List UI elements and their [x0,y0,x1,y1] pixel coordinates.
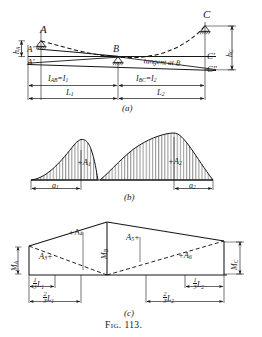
tangent-left-branch [28,57,120,63]
panel-a-graphic [19,22,237,100]
point-label-a-prime: A' [27,45,34,54]
point-label-c-prime: C' [207,52,215,61]
moment-label-mc: MC [231,260,240,270]
moment-label-mb: MB [101,249,110,259]
moment-label-ma: MA [11,261,20,271]
elastic-curve [41,26,205,58]
dim-label-twothird-l2: 23L2 [163,291,174,304]
point-label-a: A [40,24,47,35]
panel-label-b: (b) [124,193,135,202]
area-label-a6: +A6 [178,251,192,261]
inertia-label-ab: IAB=I1 [48,75,68,84]
deflection-label-h-a: hA [13,47,22,54]
dim-label-twothird-l1: 23L1 [43,291,54,304]
moment-line-bc [107,222,224,241]
dim-label-a1: a1 [52,182,59,191]
span-label-l1: L1 [66,88,74,98]
dim-label-a2: a2 [189,182,196,191]
moment-area-a2 [100,133,213,180]
panel-label-c: (c) [124,309,134,318]
inertia-label-bc: IBC=I2 [136,75,156,84]
dim-label-third-l2: 13L2 [193,277,204,290]
dim-label-third-l1: 13L1 [33,277,44,290]
area-label-a4: +A4 [68,227,83,239]
figure-caption: Fig. 113. [105,321,142,331]
point-label-c: C [203,9,210,20]
point-label-b: B [113,44,119,54]
split-diagonal-right [107,241,224,275]
area-label-a3: A3+ [39,252,53,262]
area-label-a1: +A1 [77,158,91,168]
span-label-l2: L2 [157,88,165,98]
deflection-label-h-c: hC [226,49,235,57]
area-label-a5: A5+ [126,233,140,243]
tangent-at-b-line [28,65,216,71]
area-label-a2: +A2 [168,157,182,167]
point-label-a-double-prime: A′ [27,58,34,67]
panel-label-a: (a) [122,104,133,113]
point-label-c-double-prime: C" [207,65,217,74]
